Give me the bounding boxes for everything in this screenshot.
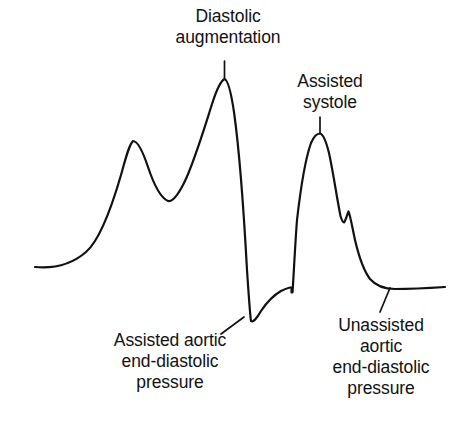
waveform-figure: Diastolic augmentation Assisted systole … [0, 0, 452, 433]
label-diastolic-augmentation-line2: augmentation [143, 27, 313, 48]
label-assisted-aortic-edp-line1: Assisted aortic [84, 330, 256, 351]
label-unassisted-aortic-edp-line3: end-diastolic [313, 357, 449, 378]
label-unassisted-aortic-edp-line4: pressure [313, 378, 449, 399]
label-unassisted-aortic-edp-line2: aortic [313, 336, 449, 357]
label-assisted-aortic-end-diastolic-pressure: Assisted aortic end-diastolic pressure [84, 330, 256, 393]
label-diastolic-augmentation-line1: Diastolic [143, 6, 313, 27]
label-assisted-systole-line1: Assisted [268, 71, 392, 92]
label-unassisted-aortic-end-diastolic-pressure: Unassisted aortic end-diastolic pressure [313, 315, 449, 399]
label-assisted-aortic-edp-line2: end-diastolic [84, 351, 256, 372]
label-diastolic-augmentation: Diastolic augmentation [143, 6, 313, 48]
label-assisted-systole-line2: systole [268, 92, 392, 113]
label-assisted-systole: Assisted systole [268, 71, 392, 113]
label-unassisted-aortic-edp-line1: Unassisted [313, 315, 449, 336]
label-assisted-aortic-edp-line3: pressure [84, 372, 256, 393]
